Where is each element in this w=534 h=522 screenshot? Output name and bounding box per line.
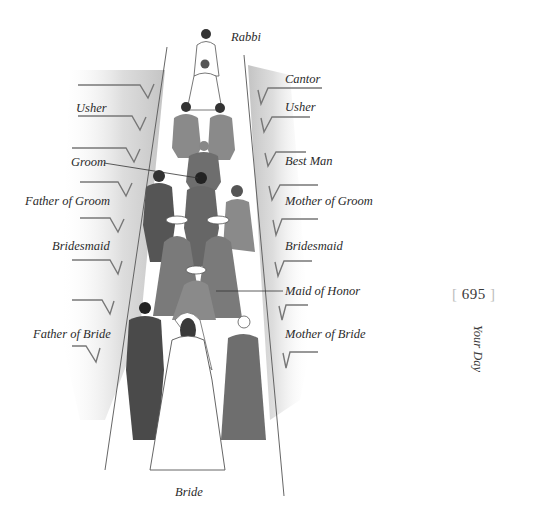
book-page: Rabbi Cantor Usher Usher Groom Best Man … bbox=[0, 0, 534, 522]
running-head: Your Day bbox=[470, 325, 485, 372]
label-mother-of-groom: Mother of Groom bbox=[285, 194, 373, 209]
label-father-of-groom: Father of Groom bbox=[25, 194, 110, 209]
label-father-of-bride: Father of Bride bbox=[33, 327, 111, 342]
page-number: [ 695 ] bbox=[452, 286, 496, 303]
label-cantor: Cantor bbox=[285, 72, 320, 87]
figure-rabbi bbox=[194, 29, 219, 76]
figure-mother-of-bride bbox=[221, 316, 266, 440]
label-mother-of-bride: Mother of Bride bbox=[285, 327, 366, 342]
label-usher-left: Usher bbox=[76, 101, 107, 116]
label-bride: Bride bbox=[175, 485, 203, 500]
label-bridesmaid-left: Bridesmaid bbox=[52, 239, 110, 254]
label-rabbi: Rabbi bbox=[231, 30, 261, 45]
folio-bracket-left: [ bbox=[452, 286, 462, 302]
folio-bracket-right: ] bbox=[486, 286, 496, 302]
page-number-value: 695 bbox=[462, 286, 486, 302]
label-usher-right: Usher bbox=[285, 100, 316, 115]
label-best-man: Best Man bbox=[285, 154, 333, 169]
label-bridesmaid-right: Bridesmaid bbox=[285, 239, 343, 254]
label-maid-of-honor: Maid of Honor bbox=[285, 284, 360, 299]
label-groom: Groom bbox=[71, 155, 106, 170]
processional-illustration bbox=[0, 0, 534, 522]
figure-usher-right bbox=[208, 103, 235, 160]
